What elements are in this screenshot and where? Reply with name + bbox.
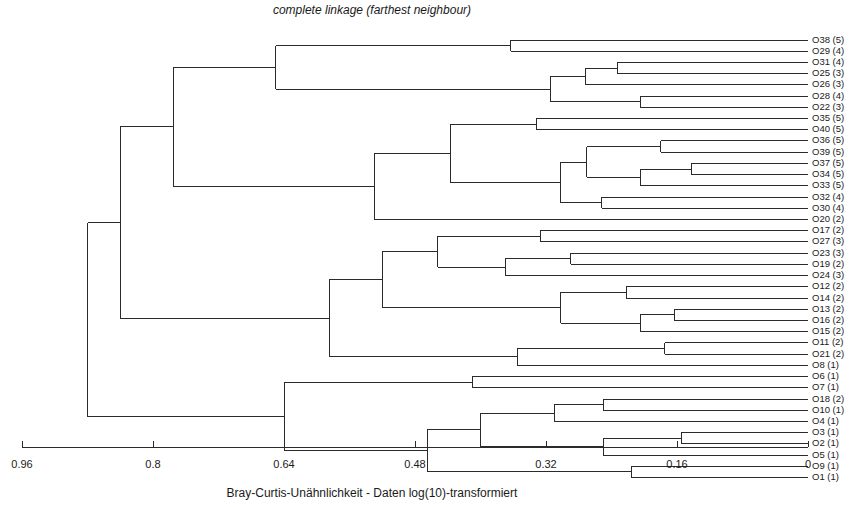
leaf-label: O15 (2): [812, 325, 844, 336]
leaf-label: O29 (4): [812, 45, 844, 56]
leaf-label: O17 (2): [812, 224, 844, 235]
leaf-label: O26 (3): [812, 78, 844, 89]
leaf-label: O6 (1): [812, 370, 839, 381]
dendrogram-canvas: complete linkage (farthest neighbour) O3…: [0, 0, 855, 507]
x-axis-tick-label: 0.64: [273, 458, 294, 470]
leaf-label: O32 (4): [812, 191, 844, 202]
leaf-label: O22 (3): [812, 101, 844, 112]
leaf-label: O34 (5): [812, 168, 844, 179]
x-axis-tick-label: 0.48: [404, 458, 425, 470]
leaf-label: O4 (1): [812, 415, 839, 426]
leaf-label: O30 (4): [812, 202, 844, 213]
leaf-label: O28 (4): [812, 90, 844, 101]
leaf-label: O11 (2): [812, 336, 844, 347]
dendrogram-plot: complete linkage (farthest neighbour) O3…: [0, 0, 855, 507]
leaf-label: O1 (1): [812, 471, 839, 482]
x-axis-tick-label: 0.32: [535, 458, 556, 470]
leaf-label: O36 (5): [812, 134, 844, 145]
dendrogram-tree: [88, 40, 809, 478]
leaf-label: O31 (4): [812, 56, 844, 67]
leaf-label: O3 (1): [812, 426, 839, 437]
leaf-label: O19 (2): [812, 258, 844, 269]
leaf-label: O9 (1): [812, 460, 839, 471]
leaf-label: O35 (5): [812, 112, 844, 123]
leaf-label: O27 (3): [812, 235, 844, 246]
leaf-label: O25 (3): [812, 67, 844, 78]
leaf-label: O7 (1): [812, 381, 839, 392]
x-axis-tick-label: 0.16: [666, 458, 687, 470]
leaf-label: O14 (2): [812, 292, 844, 303]
leaf-label: O40 (5): [812, 123, 844, 134]
leaf-label: O12 (2): [812, 280, 844, 291]
x-axis-tick-label: 0.96: [11, 458, 32, 470]
chart-title: complete linkage (farthest neighbour): [273, 3, 471, 17]
x-axis-tick-label: 0.8: [145, 458, 160, 470]
leaf-label: O5 (1): [812, 449, 839, 460]
x-axis-caption: Bray-Curtis-Unähnlichkeit - Daten log(10…: [227, 486, 518, 500]
leaf-label: O10 (1): [812, 404, 844, 415]
leaf-label: O16 (2): [812, 314, 844, 325]
leaf-label: O39 (5): [812, 146, 844, 157]
leaf-label: O21 (2): [812, 348, 844, 359]
leaf-label: O33 (5): [812, 179, 844, 190]
leaf-label: O24 (3): [812, 269, 844, 280]
leaf-label: O38 (5): [812, 34, 844, 45]
leaf-label: O23 (3): [812, 247, 844, 258]
leaf-label: O13 (2): [812, 303, 844, 314]
leaf-label: O37 (5): [812, 157, 844, 168]
leaf-label: O2 (1): [812, 437, 839, 448]
leaf-label: O20 (2): [812, 213, 844, 224]
x-axis-tick-label: 0: [805, 458, 811, 470]
leaf-label: O18 (2): [812, 393, 844, 404]
leaf-label-group: O38 (5)O29 (4)O31 (4)O25 (3)O26 (3)O28 (…: [812, 34, 844, 483]
leaf-label: O8 (1): [812, 359, 839, 370]
